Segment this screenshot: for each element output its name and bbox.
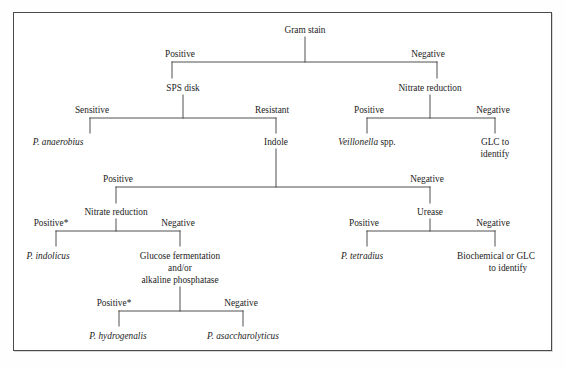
node-sps-disk: SPS disk	[166, 83, 200, 93]
node-nitrate-reduction-top: Nitrate reduction	[398, 83, 462, 93]
node-gram-stain: Gram stain	[284, 25, 325, 35]
node-glucose-line1: Glucose fermentation	[140, 251, 221, 261]
node-p-hydrogenalis: P. hydrogenalis	[88, 331, 147, 341]
label-nitrate-top-negative: Negative	[476, 105, 510, 115]
label-urease-negative: Negative	[476, 218, 510, 228]
label-indole-negative: Negative	[410, 174, 444, 184]
label-nitrate-top-positive: Positive	[354, 105, 384, 115]
node-p-indolicus: P. indolicus	[25, 251, 70, 261]
label-gram-positive: Positive	[165, 49, 195, 59]
node-glucose-line3: alkaline phosphatase	[141, 275, 218, 285]
label-sps-sensitive: Sensitive	[75, 105, 109, 115]
label-nitrate-low-positive: Positive*	[34, 218, 69, 228]
label-nitrate-low-negative: Negative	[161, 218, 195, 228]
diagram-page: Gram stain Positive Negative SPS disk Se…	[0, 0, 566, 368]
node-veillonella: Veillonella spp.	[338, 137, 395, 147]
label-gram-negative: Negative	[411, 49, 445, 59]
node-p-anaerobius: P. anaerobius	[32, 137, 84, 147]
label-urease-positive: Positive	[349, 218, 379, 228]
node-glc-line1: GLC to	[481, 137, 510, 147]
veillonella-genus: Veillonella	[338, 137, 378, 147]
label-sps-resistant: Resistant	[255, 105, 290, 115]
label-glucose-positive: Positive*	[97, 298, 132, 308]
veillonella-spp: spp.	[378, 137, 396, 147]
label-indole-positive: Positive	[103, 174, 133, 184]
node-indole: Indole	[264, 137, 288, 147]
node-p-tetradius: P. tetradius	[340, 251, 384, 261]
flowchart-svg: Gram stain Positive Negative SPS disk Se…	[0, 0, 566, 368]
node-urease: Urease	[417, 207, 443, 217]
node-biochem-line1: Biochemical or GLC	[457, 251, 535, 261]
node-glc-line2: identify	[481, 149, 510, 159]
label-glucose-negative: Negative	[224, 298, 258, 308]
node-nitrate-reduction-low: Nitrate reduction	[84, 207, 148, 217]
node-biochem-line2: to identify	[489, 263, 528, 273]
node-glucose-line2: and/or	[168, 263, 193, 273]
node-p-asaccharolyticus: P. asaccharolyticus	[206, 331, 279, 341]
